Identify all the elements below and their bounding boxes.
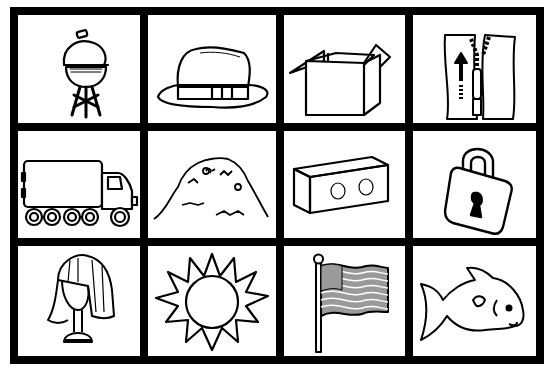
zipper-icon bbox=[413, 15, 536, 123]
hay-icon bbox=[148, 131, 276, 238]
picture-grid: grill hat box bbox=[10, 7, 544, 364]
cell-hat: hat bbox=[148, 15, 276, 123]
fish-icon bbox=[413, 246, 536, 356]
cell-flag: flag bbox=[284, 246, 405, 356]
cell-lock: lock bbox=[413, 131, 536, 238]
cell-fish: fish bbox=[413, 246, 536, 356]
flag-icon bbox=[284, 246, 405, 356]
grill-icon bbox=[18, 15, 140, 123]
cell-hay: hay bbox=[148, 131, 276, 238]
cell-box: box bbox=[284, 15, 405, 123]
hat-icon bbox=[148, 15, 276, 123]
cell-wig: wig bbox=[18, 246, 140, 356]
cell-zipper: zipper bbox=[413, 15, 536, 123]
cell-grill: grill bbox=[18, 15, 140, 123]
cell-block: block bbox=[284, 131, 405, 238]
block-icon bbox=[284, 131, 405, 238]
lock-icon bbox=[413, 131, 536, 238]
cell-sun: sun bbox=[148, 246, 276, 356]
box-icon bbox=[284, 15, 405, 123]
wig-icon bbox=[18, 246, 140, 356]
sun-icon bbox=[148, 246, 276, 356]
truck-icon bbox=[18, 131, 140, 238]
cell-truck: truck bbox=[18, 131, 140, 238]
